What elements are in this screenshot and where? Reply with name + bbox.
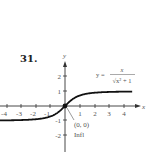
y-tick-labels: 2 1 -1 -2 (55, 73, 61, 140)
x-axis-arrow-icon (135, 104, 141, 108)
x-axis-label: x (141, 103, 146, 111)
y-axis-label: y (62, 52, 67, 60)
equation-numerator: x (120, 66, 124, 73)
svg-text:-4: -4 (1, 110, 7, 118)
svg-text:-2: -2 (30, 110, 36, 118)
svg-text:4: 4 (122, 110, 126, 118)
problem-number: 31. (20, 53, 37, 64)
equation-lhs: y = (96, 71, 105, 78)
svg-text:-2: -2 (55, 132, 61, 140)
inflection-point (63, 104, 68, 109)
x-tick-labels: -4 -3 -2 -1 1 2 3 4 (1, 110, 126, 118)
svg-text:1: 1 (58, 88, 62, 96)
svg-text:2: 2 (93, 110, 97, 118)
equation-denominator: √x² + 1 (113, 77, 132, 84)
svg-text:1: 1 (78, 110, 82, 118)
svg-text:-3: -3 (16, 110, 22, 118)
equation: y = x √x² + 1 (96, 66, 135, 84)
point-note: Infl (74, 131, 84, 139)
y-axis-arrow-icon (63, 61, 67, 67)
svg-text:2: 2 (58, 73, 62, 81)
svg-text:3: 3 (107, 110, 111, 118)
svg-text:-1: -1 (55, 117, 61, 125)
leader-line (67, 108, 74, 120)
graph: x y -4 -3 -2 -1 1 2 3 4 2 1 -1 -2 (0, 0, 154, 167)
point-label: (0, 0) (74, 121, 90, 129)
